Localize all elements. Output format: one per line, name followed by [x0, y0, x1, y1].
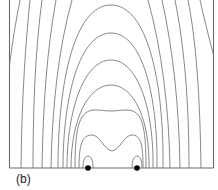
contour-line — [21, 0, 30, 168]
contour-diagram — [0, 0, 218, 190]
contour-arch — [75, 110, 146, 168]
contour-line — [200, 0, 214, 55]
contour-line — [10, 0, 21, 65]
contour-line — [175, 0, 189, 168]
contour-arch — [79, 135, 143, 168]
contour-line — [188, 0, 201, 168]
source-dot-right — [134, 165, 140, 171]
contour-line — [42, 0, 56, 168]
contour-arch — [71, 85, 149, 168]
contour-arch — [58, 5, 163, 168]
contour-line — [33, 0, 42, 168]
panel-label: (b) — [16, 172, 31, 186]
contour-arch — [63, 33, 157, 168]
source-dot-left — [85, 165, 91, 171]
contour-line — [51, 0, 72, 168]
